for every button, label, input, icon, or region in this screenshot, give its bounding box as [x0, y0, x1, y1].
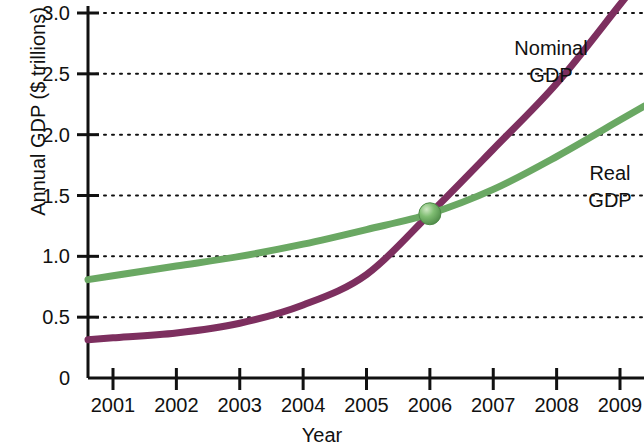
series-label-line1: Nominal	[514, 37, 587, 59]
y-axis-tick-labels: 00.51.01.52.02.53.0	[42, 2, 70, 389]
x-axis-tick-label: 2004	[281, 394, 326, 416]
series-curve-real-gdp	[88, 106, 644, 279]
y-axis-tick-label: 2.0	[42, 124, 70, 146]
y-axis-tick-label: 3.0	[42, 2, 70, 24]
x-axis-tick-label: 2002	[154, 394, 199, 416]
series-label-line2: GDP	[588, 189, 631, 211]
series-label-line1: Real	[589, 162, 630, 184]
y-axis-tick-label: 0.5	[42, 306, 70, 328]
x-axis-tick-label: 2008	[534, 394, 579, 416]
x-axis-tick-label: 2007	[471, 394, 516, 416]
x-axis-tick-label: 2003	[218, 394, 263, 416]
x-axis-tick-label: 2006	[408, 394, 453, 416]
annotation-markers	[419, 203, 441, 225]
x-axis-tick-labels: 200120022003200420052006200720082009	[91, 394, 643, 416]
y-axis-tick-label: 1.5	[42, 185, 70, 207]
x-axis-tick-label: 2001	[91, 394, 136, 416]
intersection-marker	[419, 203, 441, 225]
x-axis-tick-label: 2005	[344, 394, 389, 416]
axis-lines	[88, 6, 644, 378]
y-axis-tick-label: 2.5	[42, 63, 70, 85]
y-axis-tick-label: 0	[59, 367, 70, 389]
x-axis-tick-label: 2009	[598, 394, 643, 416]
y-axis-tick-label: 1.0	[42, 245, 70, 267]
series-label-line2: GDP	[529, 64, 572, 86]
